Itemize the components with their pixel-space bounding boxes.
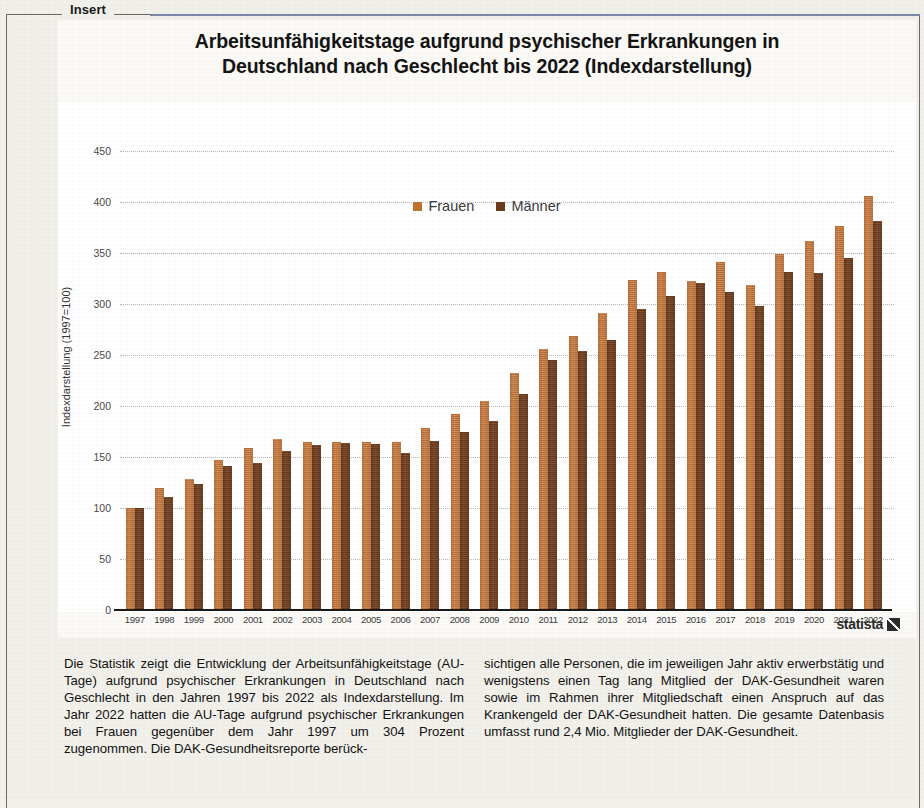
bar-männer-2006 (401, 453, 410, 610)
bar-group (150, 151, 180, 610)
bar-frauen-2008 (451, 414, 460, 610)
bar-männer-2012 (578, 351, 587, 610)
x-axis-tick-label: 2010 (504, 614, 534, 625)
bar-frauen-2017 (716, 262, 725, 610)
bar-group (327, 151, 357, 610)
x-axis-tick-label: 2013 (593, 614, 623, 625)
bar-männer-1997 (135, 508, 144, 610)
bar-group (179, 151, 209, 610)
bar-frauen-1997 (126, 508, 135, 610)
bar-frauen-2007 (421, 428, 430, 610)
bar-frauen-2000 (214, 460, 223, 610)
statista-logo-icon (887, 618, 900, 631)
bar-männer-2008 (460, 432, 469, 611)
bar-männer-2004 (341, 443, 350, 610)
bar-group (415, 151, 445, 610)
x-axis-tick-label: 2011 (533, 614, 563, 625)
x-axis-tick-label: 2012 (563, 614, 593, 625)
x-axis-tick-label: 2020 (799, 614, 829, 625)
bar-frauen-2002 (273, 439, 282, 610)
bar-männer-2007 (430, 441, 439, 610)
bar-frauen-2019 (775, 254, 784, 610)
bar-frauen-2015 (657, 272, 666, 610)
body-column-right: sichtigen alle Personen, die im jeweilig… (484, 655, 884, 757)
x-axis-tick-label: 2006 (386, 614, 416, 625)
bar-frauen-1998 (155, 488, 164, 610)
x-axis-tick-label: 2003 (297, 614, 327, 625)
x-axis-tick-label: 2014 (622, 614, 652, 625)
bar-frauen-2001 (244, 448, 253, 610)
x-axis-tick-label: 2008 (445, 614, 475, 625)
bar-männer-2021 (844, 258, 853, 610)
bar-männer-2022 (873, 221, 882, 610)
bar-group (770, 151, 800, 610)
bar-frauen-2010 (510, 373, 519, 610)
bar-männer-2010 (519, 394, 528, 610)
legend-label-frauen: Frauen (428, 198, 474, 214)
bar-group (238, 151, 268, 610)
x-axis-tick-label: 2016 (681, 614, 711, 625)
y-axis-tick-label: 100 (93, 502, 111, 514)
bar-männer-2018 (755, 306, 764, 610)
x-axis-tick-label: 1997 (120, 614, 150, 625)
chart-title-line-2: Deutschland nach Geschlecht bis 2022 (In… (128, 54, 846, 79)
bar-männer-2013 (607, 340, 616, 610)
article-body: Die Statistik zeigt die Entwicklung der … (64, 655, 914, 757)
bar-männer-1999 (194, 484, 203, 610)
bar-group (504, 151, 534, 610)
legend-swatch-maenner-icon (496, 202, 505, 211)
body-text-left: Die Statistik zeigt die Entwicklung der … (64, 655, 464, 757)
bar-frauen-2021 (835, 226, 844, 610)
bar-frauen-2013 (598, 313, 607, 610)
chart-title-line-1: Arbeitsunfähigkeitstage aufgrund psychis… (195, 30, 780, 52)
bar-frauen-2012 (569, 336, 578, 610)
bar-group (445, 151, 475, 610)
x-axis-tick-label: 1998 (150, 614, 180, 625)
bar-group (681, 151, 711, 610)
bar-männer-2011 (548, 360, 557, 610)
x-axis-tick-label: 2019 (770, 614, 800, 625)
bar-männer-2020 (814, 273, 823, 610)
bar-group (120, 151, 150, 610)
insert-top-rule (150, 14, 920, 16)
bar-group (829, 151, 859, 610)
x-axis-tick-label: 2005 (356, 614, 386, 625)
body-text-right: sichtigen alle Personen, die im jeweilig… (484, 655, 884, 740)
x-axis-tick-label: 2015 (652, 614, 682, 625)
x-axis-tick-labels: 1997199819992000200120022003200420052006… (120, 614, 888, 625)
x-axis-tick-label: 2001 (238, 614, 268, 625)
x-axis-tick-label: 1999 (179, 614, 209, 625)
bar-frauen-2004 (332, 442, 341, 610)
bar-group (622, 151, 652, 610)
chart-legend: Frauen Männer (58, 198, 916, 214)
y-axis-tick-label: 50 (99, 553, 111, 565)
bar-männer-2005 (371, 444, 380, 610)
bar-group (474, 151, 504, 610)
bar-group (652, 151, 682, 610)
legend-swatch-frauen-icon (413, 202, 422, 211)
x-axis-tick-label: 2004 (327, 614, 357, 625)
body-column-left: Die Statistik zeigt die Entwicklung der … (64, 655, 464, 757)
bar-frauen-2006 (392, 442, 401, 610)
bar-männer-2000 (223, 466, 232, 610)
statista-wordmark: statista (836, 616, 883, 632)
y-axis-tick-label: 0 (105, 604, 111, 616)
bar-chart-plot: 050100150200250300350400450 (120, 151, 888, 610)
bar-männer-2009 (489, 421, 498, 610)
bar-group (297, 151, 327, 610)
bar-group (740, 151, 770, 610)
bar-männer-2016 (696, 283, 705, 610)
bar-frauen-2020 (805, 241, 814, 610)
bar-frauen-2014 (628, 280, 637, 610)
x-axis-tick-label: 2018 (740, 614, 770, 625)
insert-legend-label: Insert (62, 2, 114, 17)
bar-frauen-2003 (303, 442, 312, 610)
bar-frauen-2018 (746, 285, 755, 610)
bar-group (209, 151, 239, 610)
statista-source: statista (836, 616, 900, 632)
chart-card: Arbeitsunfähigkeitstage aufgrund psychis… (58, 20, 916, 638)
bar-group (563, 151, 593, 610)
y-axis-tick-label: 150 (93, 451, 111, 463)
x-axis-tick-label: 2009 (474, 614, 504, 625)
bar-group (711, 151, 741, 610)
